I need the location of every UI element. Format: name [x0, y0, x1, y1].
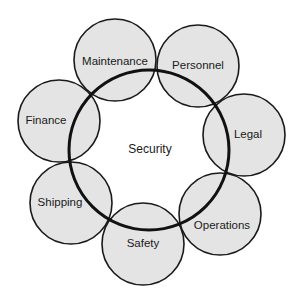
hub-label: Security	[128, 142, 171, 156]
security-ring-diagram: MaintenancePersonnelLegalOperationsSafet…	[0, 0, 299, 302]
node-label-legal: Legal	[234, 128, 262, 140]
node-label-shipping: Shipping	[38, 196, 83, 208]
node-label-operations: Operations	[194, 219, 251, 231]
node-label-finance: Finance	[26, 114, 67, 126]
node-label-safety: Safety	[127, 237, 160, 249]
node-label-personnel: Personnel	[172, 59, 224, 71]
node-label-maintenance: Maintenance	[82, 55, 148, 67]
